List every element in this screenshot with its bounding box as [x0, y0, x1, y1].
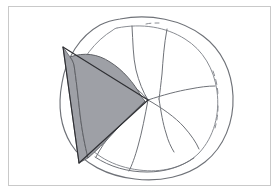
geometric-figure-svg: [0, 0, 279, 194]
figure-canvas: [0, 0, 279, 194]
